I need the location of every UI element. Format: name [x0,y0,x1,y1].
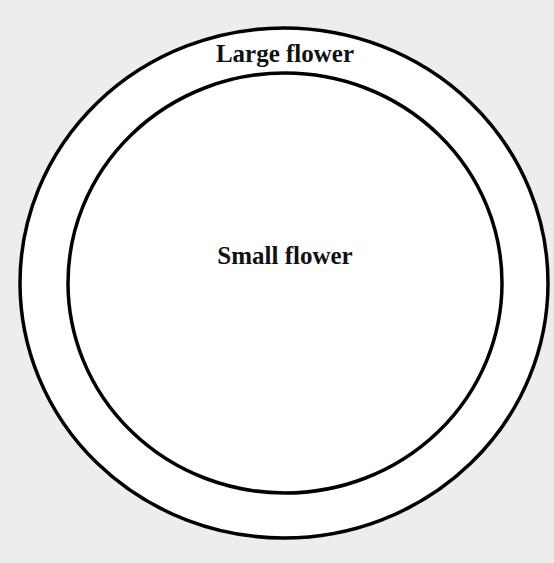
inner-circle-small-flower [68,73,502,493]
large-flower-label: Large flower [216,40,354,68]
venn-diagram [0,0,554,563]
small-flower-label: Small flower [217,242,352,270]
